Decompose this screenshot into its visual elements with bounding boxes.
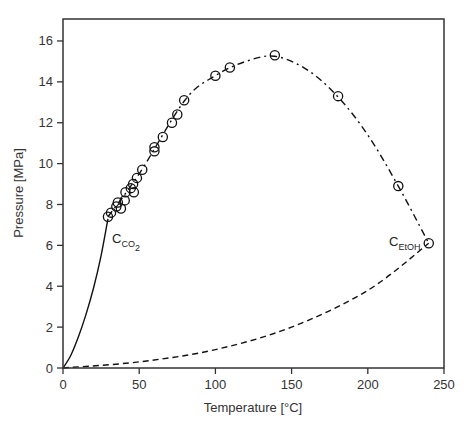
x-tick-label: 150: [281, 377, 303, 392]
data-point-circle: [158, 132, 167, 141]
etoh-critical-label: CEtOH: [389, 234, 420, 252]
y-tick-label: 10: [39, 156, 53, 171]
data-point-circle: [225, 63, 234, 72]
critical-locus-curve: [108, 56, 429, 243]
y-axis-label: Pressure [MPa]: [11, 148, 26, 238]
data-point-circle: [138, 165, 147, 174]
data-point-circle: [424, 239, 433, 248]
data-point-circle: [173, 110, 182, 119]
y-tick-label: 0: [46, 361, 53, 376]
y-tick-label: 6: [46, 238, 53, 253]
x-axis-ticks: 050100150200250: [59, 368, 454, 392]
y-tick-label: 2: [46, 320, 53, 335]
etoh-vapor-pressure-curve: [63, 243, 429, 368]
x-axis-label: Temperature [°C]: [204, 400, 302, 415]
x-tick-label: 0: [59, 377, 66, 392]
phase-diagram-chart: 050100150200250 0246810121416 Temperatur…: [0, 0, 473, 432]
data-points: [103, 51, 433, 248]
x-tick-label: 200: [357, 377, 379, 392]
y-tick-label: 4: [46, 279, 53, 294]
co2-vapor-pressure-curve: [63, 219, 108, 368]
y-axis-ticks: 0246810121416: [39, 33, 63, 375]
data-point-circle: [211, 71, 220, 80]
data-point-circle: [270, 51, 279, 60]
y-tick-label: 8: [46, 197, 53, 212]
y-tick-label: 14: [39, 74, 53, 89]
y-tick-label: 16: [39, 33, 53, 48]
y-tick-label: 12: [39, 115, 53, 130]
data-point-circle: [167, 118, 176, 127]
plot-frame: [63, 19, 444, 368]
x-tick-label: 250: [433, 377, 455, 392]
x-tick-label: 50: [132, 377, 146, 392]
co2-critical-label: CCO2: [112, 231, 140, 253]
x-tick-label: 100: [205, 377, 227, 392]
